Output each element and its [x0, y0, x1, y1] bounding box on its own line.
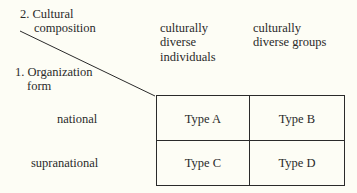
column-header-individuals-line2: diverse [160, 35, 196, 49]
cell-type-d: Type D [250, 156, 344, 170]
column-header-individuals-line1: culturally [160, 21, 208, 35]
column-header-groups-line1: culturally [253, 21, 301, 35]
cell-type-c: Type C [157, 156, 249, 170]
column-header-individuals-line3: individuals [160, 50, 216, 64]
cell-type-b: Type B [250, 112, 344, 126]
column-header-groups-line2: diverse groups [253, 35, 326, 49]
row-label-supranational: supranational [31, 156, 98, 170]
cultural-composition-label-line1: 2. Cultural [20, 7, 73, 21]
cell-type-a: Type A [157, 112, 249, 126]
cultural-composition-label-line2: composition [34, 21, 96, 35]
organization-form-label-line1: 1. Organization [15, 65, 93, 79]
organization-form-label-line2: form [27, 79, 51, 93]
row-label-national: national [57, 112, 97, 126]
